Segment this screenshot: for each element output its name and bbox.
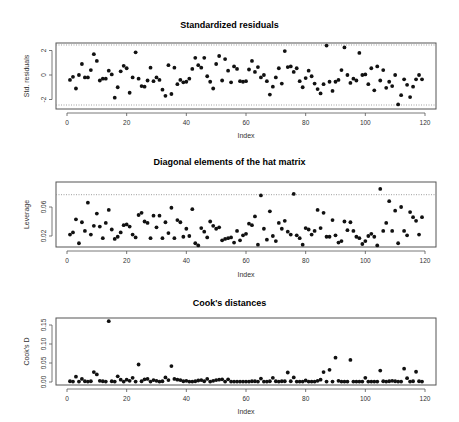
data-point [256, 65, 260, 69]
data-point [381, 229, 385, 233]
data-point [396, 241, 400, 245]
data-point [202, 230, 206, 234]
data-point [286, 371, 290, 375]
data-point [95, 373, 99, 377]
data-point [238, 238, 242, 242]
data-point [196, 244, 200, 248]
data-point [360, 380, 364, 384]
data-point [414, 370, 418, 374]
data-point [286, 230, 290, 234]
data-point [354, 79, 358, 83]
cooks-plot-frame [56, 318, 436, 385]
data-point [235, 229, 239, 233]
data-point [134, 50, 138, 54]
data-point [369, 66, 373, 70]
data-point [295, 66, 299, 70]
data-point [155, 225, 159, 229]
data-point [363, 239, 367, 243]
data-point [295, 233, 299, 237]
hat-matrix-y-label: Leverage [23, 200, 31, 229]
data-point [346, 73, 350, 77]
data-point [68, 78, 72, 82]
data-point [187, 234, 191, 238]
data-point [310, 74, 314, 78]
data-point [89, 68, 93, 72]
data-point [322, 211, 326, 215]
residuals-plot-frame [56, 43, 436, 109]
data-point [405, 83, 409, 87]
data-point [187, 77, 191, 81]
data-point [71, 380, 75, 384]
data-point [131, 76, 135, 80]
data-point [277, 221, 281, 225]
data-point [184, 227, 188, 231]
data-point [253, 215, 257, 219]
data-point [211, 87, 215, 91]
data-point [420, 380, 424, 384]
data-point [384, 221, 388, 225]
data-point [190, 67, 194, 71]
x-tick-label: 20 [123, 119, 131, 126]
data-point [304, 76, 308, 80]
residuals-y-label: Std. residuals [23, 54, 30, 97]
x-tick-label: 40 [183, 395, 191, 402]
data-point [283, 219, 287, 223]
hat-matrix-plot-frame [56, 182, 436, 247]
data-point [80, 220, 84, 224]
data-point [226, 377, 230, 381]
data-point [247, 68, 251, 72]
data-point [167, 231, 171, 235]
data-point [408, 210, 412, 214]
data-point [146, 79, 150, 83]
data-point [307, 228, 311, 232]
y-tick-label: 0.05 [40, 356, 47, 369]
data-point [292, 376, 296, 380]
data-point [280, 82, 284, 86]
data-point [152, 79, 156, 83]
data-point [316, 87, 320, 91]
data-point [289, 379, 293, 383]
cooks-y-label: Cook's D [23, 337, 30, 365]
data-point [325, 380, 329, 384]
data-point [346, 228, 350, 232]
data-point [202, 56, 206, 60]
data-point [250, 223, 254, 227]
data-point [80, 62, 84, 66]
data-point [164, 94, 168, 98]
data-point [375, 244, 379, 248]
data-point [262, 227, 266, 231]
data-point [411, 215, 415, 219]
data-point [149, 66, 153, 70]
data-point [190, 207, 194, 211]
residuals-y-axis: -202 [40, 48, 52, 102]
data-point [235, 67, 239, 71]
data-point [322, 370, 326, 374]
data-point [128, 225, 132, 229]
data-point [113, 380, 117, 384]
data-point [256, 380, 260, 384]
data-point [74, 217, 78, 221]
y-tick-label: 0.06 [40, 200, 47, 213]
residuals-plot: 020406080100120Index-202Std. residuals [23, 43, 436, 139]
data-point [405, 376, 409, 380]
data-point [402, 367, 406, 371]
data-point [244, 232, 248, 236]
y-tick-label: 0.00 [40, 375, 47, 388]
x-tick-label: 0 [65, 395, 69, 402]
data-point [259, 76, 263, 80]
x-tick-label: 20 [123, 257, 131, 264]
data-point [92, 224, 96, 228]
data-point [128, 379, 132, 383]
data-point [387, 199, 391, 203]
x-tick-label: 60 [242, 257, 250, 264]
y-tick-label: 0.02 [40, 229, 47, 242]
data-point [131, 233, 135, 237]
data-point [369, 232, 373, 236]
data-point [340, 68, 344, 72]
data-point [283, 49, 287, 53]
y-tick-label: 0 [40, 73, 47, 77]
data-point [405, 233, 409, 237]
x-tick-label: 40 [183, 257, 191, 264]
data-point [158, 214, 162, 218]
data-point [328, 80, 332, 84]
